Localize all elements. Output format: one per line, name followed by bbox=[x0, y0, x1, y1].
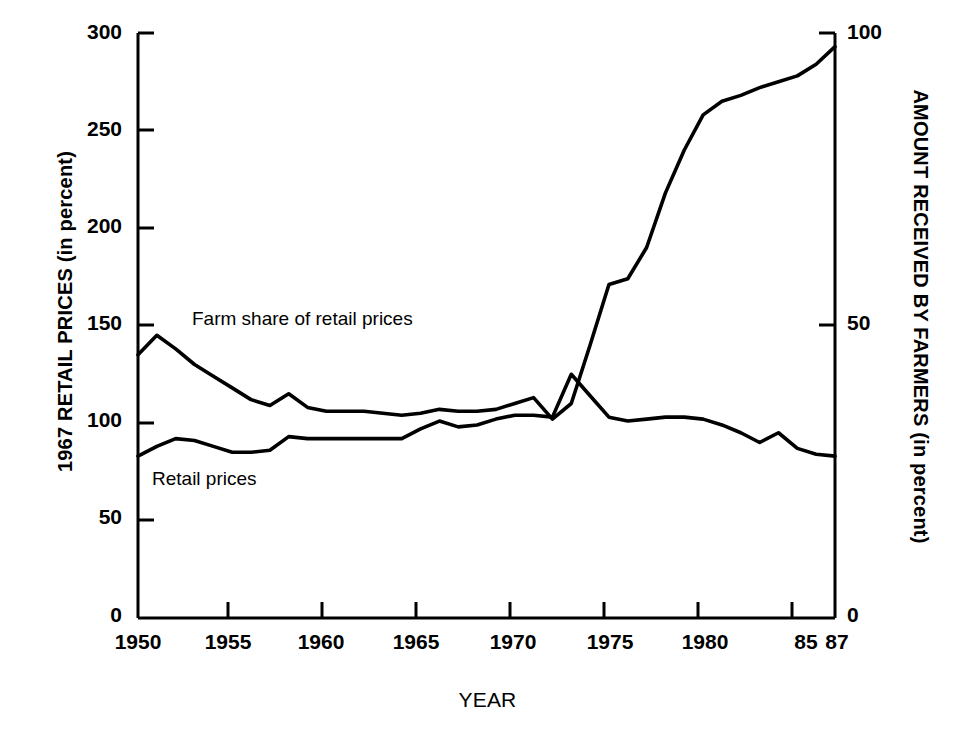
series-label-retail-prices: Retail prices bbox=[152, 468, 257, 490]
y-axis-right-tick-label: 50 bbox=[847, 311, 927, 335]
x-axis-tick-label: 87 bbox=[792, 630, 882, 654]
x-axis-tick-label: 1965 bbox=[371, 630, 461, 654]
x-axis-tick-label: 1970 bbox=[468, 630, 558, 654]
chart-figure: 1967 RETAIL PRICES (in percent) AMOUNT R… bbox=[0, 0, 975, 740]
y-axis-left-tick-label: 150 bbox=[42, 311, 122, 335]
x-axis-tick-label: 1950 bbox=[93, 630, 183, 654]
y-axis-left-tick-label: 250 bbox=[42, 117, 122, 141]
line-series-retail-prices bbox=[138, 374, 835, 456]
x-axis-tick-label: 1960 bbox=[276, 630, 366, 654]
y-axis-left-tick-label: 50 bbox=[42, 505, 122, 529]
line-series-farm-share bbox=[138, 47, 835, 419]
y-axis-left-tick-label: 300 bbox=[42, 20, 122, 44]
x-axis-title: YEAR bbox=[0, 688, 975, 712]
y-axis-left-tick-label: 200 bbox=[42, 214, 122, 238]
series-label-farm-share: Farm share of retail prices bbox=[192, 308, 413, 330]
x-axis-tick-label: 1975 bbox=[565, 630, 655, 654]
y-axis-right-tick-label: 100 bbox=[847, 20, 927, 44]
x-axis-tick-label: 1955 bbox=[183, 630, 273, 654]
y-axis-right-tick-label: 0 bbox=[847, 603, 927, 627]
plot-area bbox=[0, 0, 975, 740]
y-axis-right-ticks bbox=[819, 33, 835, 325]
y-axis-left-tick-label: 100 bbox=[42, 408, 122, 432]
y-axis-left-ticks bbox=[138, 33, 154, 520]
x-axis-tick-label: 1980 bbox=[660, 630, 750, 654]
y-axis-left-tick-label: 0 bbox=[42, 603, 122, 627]
x-axis-ticks bbox=[228, 602, 792, 618]
